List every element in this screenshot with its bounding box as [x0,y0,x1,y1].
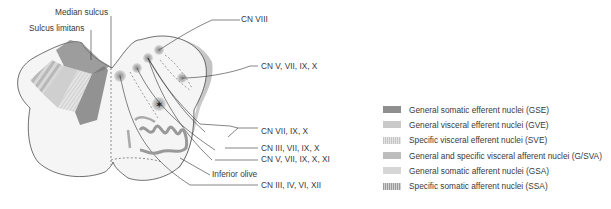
svg-text:✶: ✶ [155,99,163,110]
legend-item-gve: General visceral efferent nuclei (GVE) [383,117,602,132]
label-inferior-olive: Inferior olive [212,170,257,178]
label-cn-v-vii-ix-x: CN V, VII, IX, X [261,62,317,70]
gve-swatch [383,121,401,128]
sve-swatch [383,137,401,144]
gsva-swatch [383,152,401,159]
label-cn-iii-vii-ix-x: CN III, VII, IX, X [261,144,320,152]
legend-label: General visceral efferent nuclei (GVE) [409,120,549,130]
gsa-swatch [383,167,401,174]
label-cn-v-vii-ix-x-xi: CN V, VII, IX, X, XI [261,155,330,163]
legend-label: Specific somatic afferent nuclei (SSA) [409,181,548,191]
ssa-swatch [383,183,401,190]
legend-label: General somatic afferent nuclei (GSA) [409,166,549,176]
label-cn-vii-ix-x: CN VII, IX, X [261,127,308,135]
legend-label: General and specific visceral afferent n… [409,151,602,161]
legend-item-sve: Specific visceral efferent nuclei (SVE) [383,133,602,148]
legend-item-gsa: General somatic afferent nuclei (GSA) [383,163,602,178]
label-cn-iii-iv-vi-xii: CN III, IV, VI, XII [261,181,321,189]
legend: General somatic efferent nuclei (GSE) Ge… [383,102,602,194]
legend-item-gsva: General and specific visceral afferent n… [383,148,602,163]
legend-item-gse: General somatic efferent nuclei (GSE) [383,102,602,117]
label-median-sulcus: Median sulcus [55,8,108,16]
label-sulcus-limitans: Sulcus limitans [29,24,84,32]
gse-swatch [383,106,401,113]
legend-label: General somatic efferent nuclei (GSE) [409,105,549,115]
medulla-outline [18,36,207,180]
legend-item-ssa: Specific somatic afferent nuclei (SSA) [383,178,602,193]
legend-label: Specific visceral efferent nuclei (SVE) [409,135,547,145]
label-cn-viii: CN VIII [241,15,268,23]
